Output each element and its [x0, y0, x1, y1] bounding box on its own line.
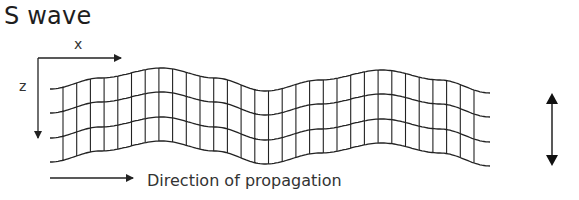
- particle-motion-arrow-icon: [546, 93, 558, 166]
- grid-horizontal-line: [50, 92, 490, 117]
- propagation-label: Direction of propagation: [147, 171, 342, 190]
- grid-horizontal-line: [50, 68, 490, 93]
- s-wave-diagram: [0, 0, 579, 200]
- deformed-grid: [50, 68, 490, 166]
- grid-horizontal-line: [50, 141, 490, 166]
- grid-horizontal-line: [50, 117, 490, 142]
